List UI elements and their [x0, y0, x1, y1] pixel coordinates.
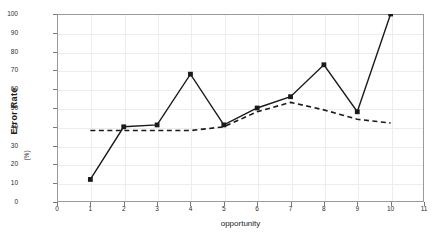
y-tick-label: 100: [0, 10, 18, 17]
x-tick-mark: [190, 202, 191, 206]
data-point-marker: [388, 14, 393, 16]
x-tick-label: 7: [279, 205, 303, 212]
x-tick-label: 8: [312, 205, 336, 212]
x-tick-mark: [224, 202, 225, 206]
x-tick-mark: [324, 202, 325, 206]
x-tick-label: 9: [345, 205, 369, 212]
x-tick-label: 11: [412, 205, 436, 212]
data-point-marker: [88, 177, 93, 182]
y-tick-label: 0: [0, 198, 18, 205]
y-tick-label: 20: [0, 160, 18, 167]
y-tick-label: 60: [0, 85, 18, 92]
x-tick-mark: [291, 202, 292, 206]
x-tick-label: 2: [112, 205, 136, 212]
y-tick-label: 70: [0, 66, 18, 73]
data-point-marker: [121, 124, 126, 129]
data-point-marker: [288, 94, 293, 99]
y-tick-label: 80: [0, 48, 18, 55]
y-tick-label: 40: [0, 123, 18, 130]
y-tick-label: 50: [0, 104, 18, 111]
data-point-marker: [188, 72, 193, 77]
error-rate-line-chart: Error Rate (%) 0102030405060708090100 01…: [0, 0, 448, 237]
x-tick-label: 10: [379, 205, 403, 212]
x-tick-label: 1: [78, 205, 102, 212]
y-tick-label: 90: [0, 29, 18, 36]
x-tick-label: 0: [45, 205, 69, 212]
data-point-marker: [221, 123, 226, 128]
y-axis-label-group: Error Rate (%): [0, 66, 24, 170]
x-tick-mark: [57, 202, 58, 206]
x-tick-label: 6: [245, 205, 269, 212]
data-point-marker: [322, 62, 327, 67]
error-rate-line-solid: [90, 14, 390, 179]
x-tick-mark: [90, 202, 91, 206]
y-axis-unit: (%): [23, 136, 30, 176]
x-tick-mark: [391, 202, 392, 206]
x-tick-label: 5: [212, 205, 236, 212]
y-tick-label: 30: [0, 142, 18, 149]
x-tick-label: 3: [145, 205, 169, 212]
x-tick-mark: [357, 202, 358, 206]
y-tick-label: 10: [0, 179, 18, 186]
x-tick-mark: [124, 202, 125, 206]
x-tick-label: 4: [178, 205, 202, 212]
x-tick-mark: [257, 202, 258, 206]
x-tick-mark: [424, 202, 425, 206]
data-point-marker: [355, 109, 360, 114]
x-axis-title: opportunity: [57, 219, 424, 228]
data-series-layer: [57, 14, 424, 202]
data-point-marker: [155, 123, 160, 128]
data-point-marker: [255, 106, 260, 111]
x-tick-mark: [157, 202, 158, 206]
